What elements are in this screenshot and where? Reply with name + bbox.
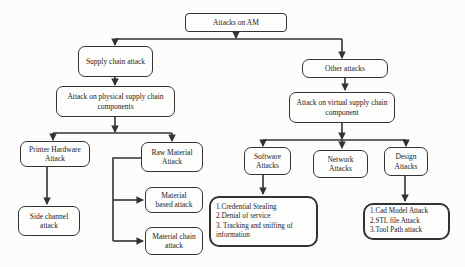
node-material-based-attack-label: Material based attack — [152, 191, 196, 209]
node-supply-chain-attack-label: Supply chain attack — [86, 57, 145, 66]
node-material-based-attack: Material based attack — [145, 187, 203, 213]
node-attacks-on-am: Attacks on AM — [185, 13, 287, 32]
node-material-chain-attack-label: Material chain attack — [152, 232, 196, 250]
design-attack-item-1: 1.Cad Model Attack — [370, 207, 444, 216]
node-attacks-on-am-label: Attacks on AM — [213, 18, 259, 27]
node-network-attacks-label: Network Attacks — [320, 155, 361, 173]
node-software-attacks: Software Attacks — [244, 147, 291, 175]
node-design-attacks-label: Design Attacks — [391, 152, 421, 170]
design-attack-item-2: 2.STL file Attack — [370, 217, 444, 226]
node-printer-hardware-attack-label: Printer Hardware Attack — [27, 145, 83, 163]
node-printer-hardware-attack: Printer Hardware Attack — [20, 141, 90, 167]
node-other-attacks: Other attacks — [302, 59, 388, 78]
node-virtual-supply-chain: Attack on virtual supply chain component — [289, 92, 395, 123]
node-material-chain-attack: Material chain attack — [145, 227, 203, 255]
node-other-attacks-label: Other attacks — [325, 64, 365, 73]
node-software-attack-list: 1.Credential Stealing 2.Denial of servic… — [209, 196, 318, 247]
node-raw-material-attack: Raw Material Attack — [141, 142, 203, 172]
node-supply-chain-attack: Supply chain attack — [78, 46, 153, 77]
software-attack-item-3: 3. Tracking and sniffing of information — [216, 222, 312, 241]
node-physical-supply-chain: Attack on physical supply chain componen… — [56, 86, 175, 117]
node-physical-supply-chain-label: Attack on physical supply chain componen… — [63, 92, 168, 110]
software-attack-item-2: 2.Denial of service — [216, 212, 312, 221]
node-virtual-supply-chain-label: Attack on virtual supply chain component — [296, 98, 388, 116]
node-software-attacks-label: Software Attacks — [251, 152, 284, 170]
node-design-attacks: Design Attacks — [384, 147, 428, 176]
node-side-channel-attack: Side channel attack — [18, 206, 80, 236]
node-network-attacks: Network Attacks — [313, 150, 368, 178]
software-attack-item-1: 1.Credential Stealing — [216, 203, 312, 212]
design-attack-item-3: 3.Tool Path attack — [370, 226, 444, 235]
node-design-attack-list: 1.Cad Model Attack 2.STL file Attack 3.T… — [363, 203, 450, 240]
flowchart-canvas: Attacks on AM Supply chain attack Attack… — [0, 0, 465, 267]
node-side-channel-attack-label: Side channel attack — [25, 212, 73, 230]
node-raw-material-attack-label: Raw Material Attack — [148, 148, 196, 166]
